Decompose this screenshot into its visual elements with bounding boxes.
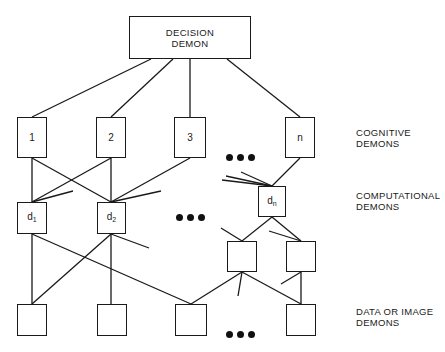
cognitive-demon-label: 3 (187, 132, 193, 143)
label-line: DEMONS (356, 202, 440, 213)
label-line: DEMONS (356, 139, 411, 150)
cognitive-demon-2: 2 (96, 117, 126, 158)
intermediate-demon-left (227, 241, 257, 272)
cognitive-demon-3: 3 (174, 117, 206, 158)
data-demon-1 (17, 304, 47, 336)
label-line: COMPUTATIONAL (356, 191, 440, 202)
intermediate-demon-right (286, 241, 316, 272)
decision-demon-line2: DEMON (166, 38, 214, 49)
data-demon-3 (175, 304, 207, 336)
cognitive-demons-label: COGNITIVE DEMONS (356, 128, 411, 149)
data-ellipsis (226, 331, 255, 338)
label-line: COGNITIVE (356, 128, 411, 139)
decision-demon-box: DECISION DEMON (129, 16, 251, 59)
data-demon-2 (97, 304, 127, 336)
demon-subscript: 2 (112, 216, 116, 223)
computational-demons-label: COMPUTATIONAL DEMONS (356, 191, 440, 212)
cognitive-demon-1: 1 (17, 117, 47, 158)
cognitive-demon-label: n (297, 132, 303, 143)
computational-ellipsis (176, 214, 205, 221)
cognitive-demon-label: 2 (108, 132, 114, 143)
label-line: DEMONS (356, 318, 433, 329)
label-line: DATA OR IMAGE (356, 307, 433, 318)
demon-subscript: 1 (33, 216, 37, 223)
cognitive-demon-label: 1 (29, 132, 35, 143)
demon-subscript: n (273, 200, 277, 207)
data-demons-label: DATA OR IMAGE DEMONS (356, 307, 433, 328)
cognitive-demon-n: n (285, 117, 315, 158)
computational-demon-d1: d1 (17, 202, 47, 234)
cognitive-ellipsis (226, 154, 255, 161)
computational-demon-d2: d2 (97, 202, 126, 234)
data-demon-4 (286, 304, 316, 336)
decision-demon-line1: DECISION (166, 27, 214, 38)
computational-demon-dn: dn (258, 186, 286, 217)
